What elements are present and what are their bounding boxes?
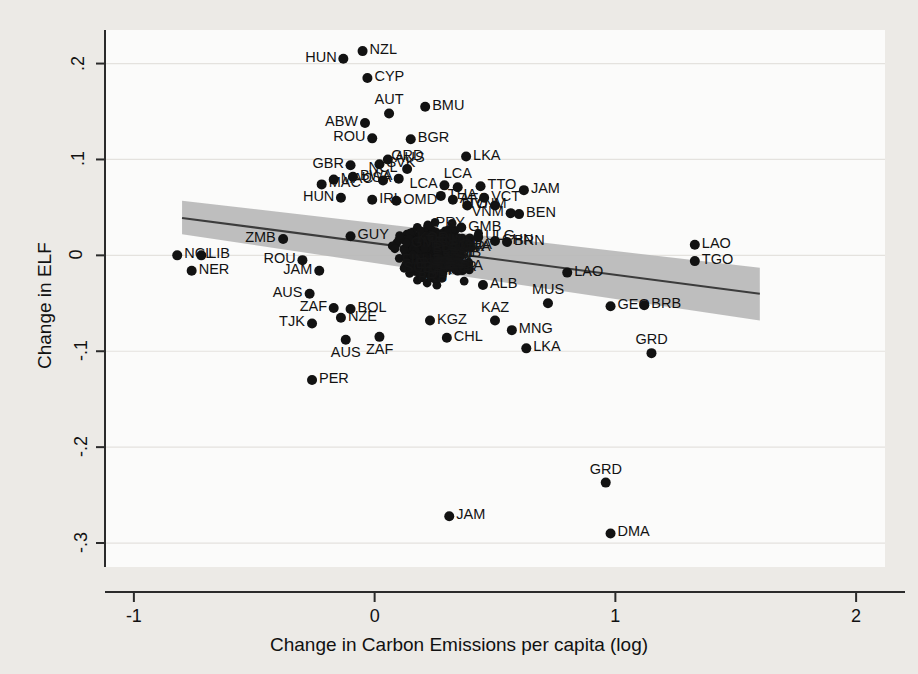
data-point: [490, 316, 500, 326]
point-label: NZL: [370, 41, 397, 57]
point-label: IRL: [379, 190, 402, 206]
y-tick-label: -.3: [71, 532, 92, 553]
data-point: [646, 348, 656, 358]
point-label: KAZ: [481, 299, 509, 315]
data-point: [367, 133, 377, 143]
point-label: LKA: [533, 338, 560, 354]
y-axis-title: Change in ELF: [34, 242, 56, 369]
point-label: GUY: [358, 226, 389, 242]
point-label: BGR: [418, 129, 449, 145]
data-point: [562, 268, 572, 278]
point-label: LKA: [473, 147, 500, 163]
y-tick-label: -.2: [71, 436, 92, 457]
point-label: GRD: [635, 331, 667, 347]
data-point: [360, 118, 370, 128]
data-point: [425, 316, 435, 326]
data-point: [336, 313, 346, 323]
point-label: ZAF: [300, 298, 327, 314]
point-label: PER: [319, 370, 349, 386]
data-point: [394, 174, 404, 184]
data-point: [690, 240, 700, 250]
svg-text:LBN: LBN: [433, 238, 461, 254]
point-label: BRN: [514, 232, 545, 248]
point-label: OMD: [403, 191, 437, 207]
data-point: [307, 375, 317, 385]
data-point: [187, 266, 197, 276]
point-label: GEO: [618, 296, 650, 312]
data-point: [314, 266, 324, 276]
point-label: LIB: [208, 245, 230, 261]
point-label: AUS: [273, 284, 303, 300]
data-point: [307, 318, 317, 328]
point-label: KGZ: [437, 311, 467, 327]
x-tick-label: -1: [126, 606, 142, 627]
point-label: CYP: [374, 68, 404, 84]
data-point: [506, 208, 516, 218]
data-point: [478, 280, 488, 290]
point-label: AUS: [331, 344, 361, 360]
y-tick-label: .2: [68, 56, 89, 71]
data-point: [336, 193, 346, 203]
point-label: JAM: [456, 506, 485, 522]
point-label: JAM: [531, 180, 560, 196]
data-point: [601, 478, 611, 488]
point-label: BMU: [432, 97, 464, 113]
point-label: TGO: [702, 251, 733, 267]
point-label: DMA: [618, 523, 650, 539]
point-label: GRD: [590, 461, 622, 477]
x-tick-label: 1: [610, 606, 620, 627]
data-point: [473, 232, 483, 242]
point-label: ZMB: [245, 229, 276, 245]
y-tick-label: -.1: [71, 340, 92, 361]
y-tick-label: 0: [66, 250, 87, 260]
point-label: LCA: [409, 175, 437, 191]
point-label: ROU: [333, 128, 365, 144]
point-label: JAM: [283, 261, 312, 277]
point-label: BEN: [526, 204, 556, 220]
x-tick-label: 0: [370, 606, 380, 627]
data-point: [521, 343, 531, 353]
point-label: NER: [199, 261, 230, 277]
data-point: [358, 46, 368, 56]
point-label: HUN: [305, 49, 336, 65]
data-point: [461, 152, 471, 162]
point-label: MNG: [519, 320, 553, 336]
data-point: [442, 333, 452, 343]
figure-container: FINLVABIHTUNTURGMBSURPRYIMBBGDECUSLVGHAI…: [0, 0, 918, 674]
point-label: HUN: [303, 188, 334, 204]
svg-text:KEN: KEN: [435, 255, 465, 271]
data-point: [338, 54, 348, 64]
data-point: [606, 528, 616, 538]
y-tick-label: .1: [68, 151, 89, 166]
data-point: [172, 250, 182, 260]
data-point: [367, 195, 377, 205]
data-point: [329, 303, 339, 313]
data-point: [543, 298, 553, 308]
point-label: ZAF: [366, 341, 393, 357]
data-point: [278, 234, 288, 244]
data-point: [384, 108, 394, 118]
point-label: AUT: [375, 91, 404, 107]
data-point: [436, 191, 446, 201]
x-axis-title: Change in Carbon Emissions per capita (l…: [0, 634, 918, 656]
data-point: [362, 73, 372, 83]
data-point: [507, 325, 517, 335]
data-point: [444, 511, 454, 521]
data-point: [514, 209, 524, 219]
x-tick-label: 2: [851, 606, 861, 627]
point-label: CHL: [454, 328, 483, 344]
point-label: ALB: [490, 275, 517, 291]
data-point: [690, 256, 700, 266]
point-label: GBR: [313, 155, 344, 171]
data-point: [606, 301, 616, 311]
point-label: TJK: [279, 313, 305, 329]
data-point: [406, 134, 416, 144]
point-label: LAO: [574, 263, 603, 279]
data-point: [420, 102, 430, 112]
data-point: [519, 185, 529, 195]
point-label: USA: [362, 169, 392, 185]
point-label: MUS: [532, 281, 564, 297]
point-label: BRB: [651, 295, 681, 311]
point-label: ABW: [325, 113, 358, 129]
point-label: LCA: [444, 165, 472, 181]
